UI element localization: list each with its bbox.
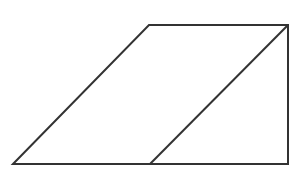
diagonal-divider-line (150, 25, 288, 164)
geometry-diagram (0, 0, 305, 179)
trapezoid-outline (13, 25, 288, 164)
